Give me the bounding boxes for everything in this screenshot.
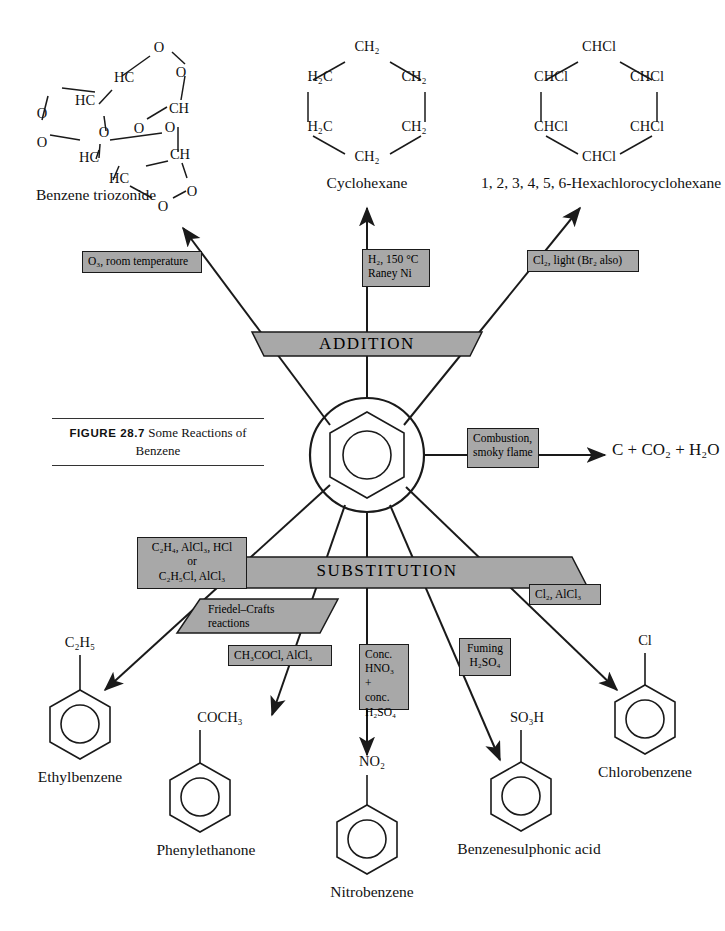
hch-vertex-lower-left: CHCl — [534, 118, 568, 134]
chlorobenzene-label: Chlorobenzene — [598, 763, 692, 780]
triozonide-atom-o2: O — [176, 64, 186, 80]
triozonide-atom-o4: O — [37, 105, 47, 121]
cyclohexane-vertex-top: CH₂ — [354, 38, 379, 54]
reagent-combustion-line2: smoky flame — [473, 445, 533, 459]
hch-vertex-top: CHCl — [582, 38, 616, 54]
cyclohexane-vertex-lower-right: CH₂ — [401, 118, 426, 134]
reagent-nitration-line2: HNO₃ + — [365, 661, 403, 690]
reagent-sulphonation-line1: Fuming — [465, 641, 505, 655]
benzenesulphonic-acid-structure — [491, 730, 551, 831]
ethylbenzene-substituent: C₂H₅ — [65, 634, 95, 650]
triozonide-atom-hc4: HC — [109, 170, 129, 186]
arrow-chlorination-light — [404, 208, 580, 425]
phenylethanone-substituent: COCH₃ — [197, 709, 242, 725]
cyclohexane-label: Cyclohexane — [327, 174, 408, 191]
triozonide-atom-o6: O — [99, 124, 109, 140]
triozonide-atom-hc2: HC — [75, 92, 95, 108]
triozonide-atom-ch1: CH — [169, 100, 189, 116]
reagent-alkylation[interactable]: C₂H₄, AlCl₃, HCl or C₂H₅Cl, AlCl₃ — [137, 537, 247, 589]
reagent-combustion-line1: Combustion, — [473, 431, 533, 445]
substitution-banner-label: SUBSTITUTION — [316, 561, 457, 581]
friedel-crafts-label: Friedel–Crafts reactions — [208, 602, 274, 631]
phenylethanone-structure — [170, 730, 230, 832]
ethylbenzene-structure — [50, 655, 110, 759]
cyclohexane-vertex-lower-left: H₂C — [307, 118, 332, 134]
nitrobenzene-substituent: NO₂ — [359, 753, 385, 769]
cyclohexane-vertex-bottom: CH₂ — [354, 148, 379, 164]
chlorobenzene-structure — [615, 653, 675, 754]
friedel-crafts-line1: Friedel–Crafts — [208, 602, 274, 616]
hch-vertex-upper-left: CHCl — [534, 68, 568, 84]
phenylethanone-label: Phenylethanone — [156, 841, 255, 858]
hexachlorocyclohexane-label: 1, 2, 3, 4, 5, 6-Hexachlorocyclohexane — [481, 174, 721, 191]
triozonide-atom-ch2: CH — [170, 146, 190, 162]
triozonide-atom-hc3: HC — [79, 149, 99, 165]
benzenesulphonic-acid-label: Benzenesulphonic acid — [457, 840, 600, 857]
hch-vertex-lower-right: CHCl — [630, 118, 664, 134]
triozonide-atom-o3: O — [134, 120, 144, 136]
reagent-nitration-line3: conc. — [365, 690, 403, 704]
reagent-alkylation-line1: C₂H₄, AlCl₃, HCl — [143, 540, 241, 554]
friedel-crafts-line2: reactions — [208, 616, 274, 630]
figure-caption: FIGURE 28.7 Some Reactions of Benzene — [52, 418, 264, 466]
reagent-alkylation-line2: or — [143, 554, 241, 568]
addition-banner-label: ADDITION — [319, 334, 415, 354]
chlorobenzene-substituent: Cl — [638, 632, 652, 648]
triozonide-atom-o7: O — [165, 119, 175, 135]
triozonide-atom-o5: O — [37, 134, 47, 150]
reagent-hydrogenation[interactable]: H₂, 150 °C Raney Ni — [362, 249, 430, 287]
reagent-chlorination-light[interactable]: Cl₂, light (Br₂ also) — [527, 250, 639, 272]
nitrobenzene-structure — [337, 775, 397, 874]
hch-vertex-bottom: CHCl — [582, 148, 616, 164]
triozonide-atom-hc1: HC — [114, 69, 134, 85]
reagent-alkylation-line3: C₂H₅Cl, AlCl₃ — [143, 569, 241, 583]
reagent-sulphonation-line2: H₂SO₄ — [465, 655, 505, 669]
reagent-acylation[interactable]: CH₃COCl, AlCl₃ — [228, 645, 332, 666]
benzene-hub-icon — [310, 398, 424, 512]
reagent-halogenation[interactable]: Cl₂, AlCl₃ — [529, 584, 601, 605]
reagent-ozonolysis[interactable]: O₃, room temperature — [82, 251, 202, 273]
nitrobenzene-label: Nitrobenzene — [330, 883, 414, 900]
reagent-nitration-line4: H₂SO₄ — [365, 705, 403, 719]
figure-title: Some Reactions of Benzene — [136, 425, 247, 458]
arrow-ozonolysis — [183, 228, 330, 425]
combustion-product-label: C + CO₂ + H₂O — [612, 440, 720, 460]
reagent-sulphonation[interactable]: Fuming H₂SO₄ — [459, 638, 511, 676]
triozonide-label: Benzene triozonide — [36, 186, 156, 203]
benzenesulphonic-acid-substituent: SO₃H — [510, 709, 544, 725]
triozonide-atom-o8: O — [187, 183, 197, 199]
reagent-hydrogenation-line1: H₂, 150 °C — [368, 252, 424, 266]
reagent-hydrogenation-line2: Raney Ni — [368, 266, 424, 280]
reagent-combustion[interactable]: Combustion, smoky flame — [467, 428, 539, 468]
reagent-nitration-line1: Conc. — [365, 647, 403, 661]
cyclohexane-vertex-upper-right: CH₂ — [401, 68, 426, 84]
reagent-nitration[interactable]: Conc. HNO₃ + conc. H₂SO₄ — [359, 644, 409, 710]
triozonide-atom-o1: O — [154, 39, 164, 55]
cyclohexane-vertex-upper-left: H₂C — [307, 68, 332, 84]
triozonide-atom-o9: O — [158, 198, 168, 214]
arrow-sulphonation — [390, 505, 500, 760]
ethylbenzene-label: Ethylbenzene — [38, 768, 122, 785]
figure-number: FIGURE 28.7 — [69, 427, 145, 439]
figure-canvas: O O HC HC CH O O O O HC HC CH O O O Benz… — [0, 0, 725, 931]
hch-vertex-upper-right: CHCl — [630, 68, 664, 84]
